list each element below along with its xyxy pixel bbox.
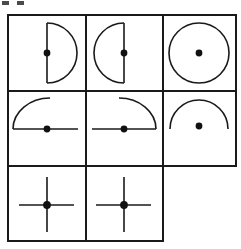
cell-2-dot	[121, 50, 128, 57]
cell-8-dot	[120, 201, 128, 209]
cell-figures	[13, 23, 229, 232]
cell-6-dot	[196, 123, 203, 130]
cell-8-figure-cross	[96, 177, 151, 232]
cell-5-arc	[119, 98, 156, 129]
cell-1-arc	[47, 23, 77, 83]
figure-container	[0, 0, 241, 249]
cell-4-dot	[44, 126, 51, 133]
cell-1-dot	[44, 50, 51, 57]
cell-2-arc	[94, 23, 124, 83]
cell-2-figure-semicircle-opening-right	[94, 23, 127, 83]
cell-3-dot	[196, 50, 203, 57]
cell-5-figure-quarter-arc-upper-right	[92, 98, 156, 132]
cell-4-figure-quarter-arc-upper-left	[13, 98, 78, 132]
figure-matrix-svg	[0, 0, 241, 249]
cell-1-figure-semicircle-opening-left	[44, 23, 77, 83]
cell-7-dot	[43, 201, 51, 209]
cell-3-figure-full-circle	[169, 23, 229, 83]
cell-5-dot	[121, 126, 128, 133]
cell-6-figure-upper-semicircle-arc	[170, 100, 228, 129]
cell-7-figure-cross	[19, 177, 74, 232]
cell-4-arc	[13, 98, 50, 129]
